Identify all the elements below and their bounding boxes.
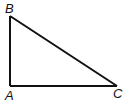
vertex-label-a: A bbox=[4, 88, 14, 103]
triangle-diagram: B A C bbox=[0, 0, 128, 106]
vertex-label-c: C bbox=[113, 86, 123, 101]
side-bc bbox=[10, 16, 117, 86]
triangle-svg: B A C bbox=[0, 0, 128, 106]
vertex-label-b: B bbox=[5, 1, 14, 16]
